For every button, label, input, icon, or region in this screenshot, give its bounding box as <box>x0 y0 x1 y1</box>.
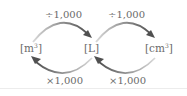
unit-cubic-meter: [m3] <box>20 43 42 54</box>
label-divide-top-right: ÷1,000 <box>108 10 145 20</box>
label-multiply-bottom-right: ×1,000 <box>109 76 146 86</box>
arrowhead-icon <box>94 56 104 64</box>
arrow-l-to-cm3 <box>96 23 151 42</box>
unit-liter: [L] <box>84 43 99 54</box>
arrowhead-icon <box>31 56 41 64</box>
label-divide-top-left: ÷1,000 <box>45 10 82 20</box>
arrow-m3-to-l <box>33 23 88 42</box>
label-multiply-bottom-left: ×1,000 <box>46 76 83 86</box>
divider <box>0 88 187 89</box>
arrow-cm3-to-l <box>99 58 155 73</box>
unit-cubic-centimeter: [cm3] <box>145 43 173 54</box>
arrow-l-to-m3 <box>36 58 92 73</box>
